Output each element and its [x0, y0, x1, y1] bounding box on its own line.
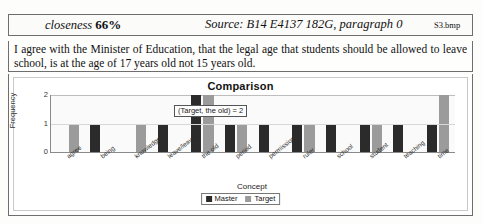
bar-master	[360, 124, 370, 153]
y-gridline	[51, 124, 455, 125]
bar-master	[259, 124, 269, 153]
legend-label: Master	[215, 195, 238, 203]
header-bar: closeness 66% Source: B14 E4137 182G, pa…	[8, 14, 473, 36]
bar-master	[393, 124, 403, 153]
legend-swatch-icon	[206, 196, 212, 202]
y-tick-label: 0	[44, 148, 48, 156]
chart-annotation: (Target, the old) = 2	[174, 105, 247, 117]
legend-item-target[interactable]: Target	[246, 195, 276, 203]
paragraph-box: I agree with the Minister of Education, …	[8, 41, 473, 72]
bar-master	[90, 124, 100, 153]
closeness-value: 66%	[95, 17, 121, 32]
chart-title: Comparison	[14, 80, 467, 92]
source-citation: Source: B14 E4137 182G, paragraph 0	[205, 17, 402, 32]
legend-swatch-icon	[246, 196, 252, 202]
chart-frame: Comparison 012 Frequency (Target, the ol…	[8, 74, 473, 216]
bar-master	[225, 124, 235, 153]
legend-label: Target	[255, 195, 276, 203]
bar-master	[427, 124, 437, 153]
y-tick-label: 2	[44, 91, 48, 99]
bar-master	[326, 124, 336, 153]
paragraph-text: I agree with the Minister of Education, …	[14, 43, 467, 70]
chart-legend: MasterTarget	[201, 193, 281, 205]
source-filename: S3.bmp	[434, 20, 460, 30]
x-axis-title: Concept	[50, 182, 454, 191]
legend-item-master[interactable]: Master	[206, 195, 238, 203]
closeness-readout: closeness 66%	[45, 17, 121, 33]
y-axis-title: Frequency	[8, 83, 17, 139]
y-tick-label: 1	[44, 120, 48, 128]
chart-canvas: Comparison 012 Frequency (Target, the ol…	[13, 77, 468, 211]
closeness-label: closeness	[45, 18, 92, 32]
screenshot-page: closeness 66% Source: B14 E4137 182G, pa…	[0, 0, 483, 224]
x-axis-labels: agreebeingknowledgeleave/leavesthe oldpe…	[50, 154, 454, 184]
